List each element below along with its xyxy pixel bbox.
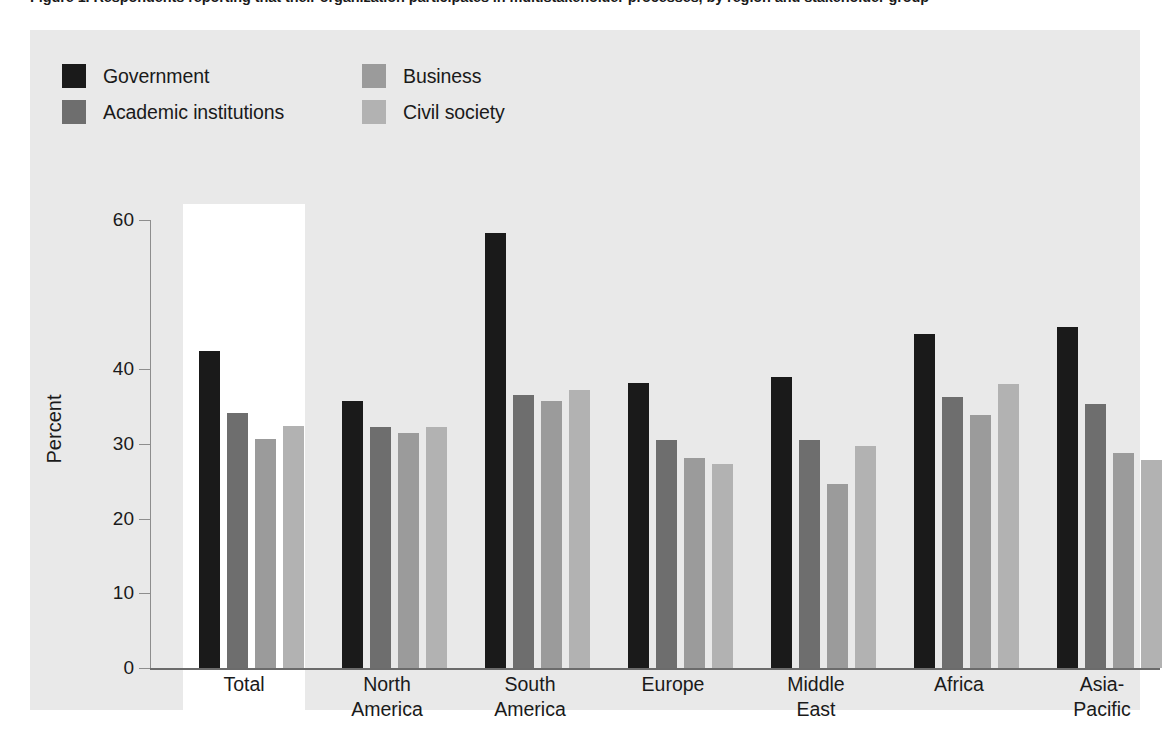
y-axis-tick: [139, 519, 150, 520]
legend-item-label: Government: [103, 65, 209, 88]
bar: [199, 351, 220, 668]
y-axis-tick: [139, 369, 150, 370]
bar: [1141, 460, 1162, 668]
y-axis-tick: [139, 220, 150, 221]
bar: [227, 413, 248, 668]
bar-set: [342, 220, 447, 668]
figure-caption: Figure 1. Respondents reporting that the…: [30, 0, 1140, 7]
y-axis-tick: [139, 444, 150, 445]
x-axis-group-label: Middle East: [787, 672, 844, 722]
bar-set: [771, 220, 876, 668]
bar: [398, 433, 419, 668]
legend-swatch-icon: [362, 100, 386, 124]
y-axis-tick: [139, 668, 150, 669]
legend-item-label: Civil society: [403, 101, 505, 124]
bar: [255, 439, 276, 668]
y-axis-tick: [139, 593, 150, 594]
bar: [513, 395, 534, 668]
bar: [541, 401, 562, 668]
bar: [656, 440, 677, 668]
y-axis-tick-label: 10: [113, 582, 134, 604]
bar: [914, 334, 935, 669]
plot-area: Percent 60403020100 TotalNorth AmericaSo…: [150, 190, 1160, 740]
bar: [283, 426, 304, 668]
x-axis-group-label: Africa: [934, 672, 984, 697]
y-axis-tick-label: 60: [113, 209, 134, 231]
bar-set: [485, 220, 590, 668]
legend-item: Academic institutions: [62, 100, 362, 124]
bar-group: Africa: [898, 220, 1020, 668]
y-axis-line: [150, 220, 151, 668]
legend-swatch-icon: [62, 100, 86, 124]
y-axis-title: Percent: [43, 395, 66, 464]
legend-item-label: Business: [403, 65, 481, 88]
x-axis-group-label: Total: [223, 672, 264, 697]
legend-item: Business: [362, 64, 562, 88]
bar-set: [628, 220, 733, 668]
chart-panel: GovernmentBusinessAcademic institutionsC…: [30, 30, 1140, 710]
x-axis-group-label: Asia- Pacific: [1073, 672, 1130, 722]
legend-item: Government: [62, 64, 362, 88]
bar: [370, 427, 391, 668]
y-axis-tick-label: 0: [123, 657, 134, 679]
bar: [426, 427, 447, 668]
bar: [628, 383, 649, 668]
y-axis-tick-label: 20: [113, 508, 134, 530]
bar: [712, 464, 733, 668]
bar-set: [1057, 220, 1162, 668]
bar-group: Europe: [612, 220, 734, 668]
bar: [569, 390, 590, 669]
bar: [1057, 327, 1078, 668]
bar: [684, 458, 705, 668]
bar-set: [914, 220, 1019, 668]
bar: [342, 401, 363, 668]
legend-item-label: Academic institutions: [103, 101, 284, 124]
y-axis-tick-label: 40: [113, 358, 134, 380]
bar: [855, 446, 876, 668]
legend-swatch-icon: [362, 64, 386, 88]
x-axis-group-label: North America: [351, 672, 423, 722]
x-axis-group-label: South America: [494, 672, 566, 722]
bar-group: Total: [183, 220, 305, 668]
bar: [1085, 404, 1106, 668]
legend-item: Civil society: [362, 100, 562, 124]
bar: [827, 484, 848, 668]
y-axis-tick-label: 30: [113, 433, 134, 455]
bar-group: North America: [326, 220, 448, 668]
bar: [970, 415, 991, 668]
bar-group: Asia- Pacific: [1041, 220, 1163, 668]
bar-set: [199, 220, 304, 668]
bar-group: South America: [469, 220, 591, 668]
x-axis-line: [150, 668, 1160, 670]
bar: [485, 233, 506, 668]
bar: [1113, 453, 1134, 668]
bar: [771, 377, 792, 668]
bar-group: Middle East: [755, 220, 877, 668]
bar: [998, 384, 1019, 668]
bar: [799, 440, 820, 668]
legend-swatch-icon: [62, 64, 86, 88]
chart-legend: GovernmentBusinessAcademic institutionsC…: [62, 58, 542, 130]
bar: [942, 397, 963, 668]
x-axis-group-label: Europe: [642, 672, 705, 697]
